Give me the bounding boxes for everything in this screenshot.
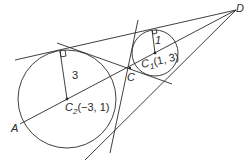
external-tangent-top — [15, 10, 236, 60]
label-a: A — [10, 122, 18, 134]
right-angle-marker-c2 — [60, 50, 66, 57]
label-c2: C2(−3, 1) — [65, 101, 110, 116]
centre-dot-c2 — [66, 98, 69, 101]
radius-label-c1: 1 — [155, 34, 161, 46]
tangent-circles-diagram: D C A 3 1 C2(−3, 1) C1(1, 3) — [0, 0, 250, 161]
label-d: D — [236, 2, 244, 14]
label-c: C — [127, 71, 135, 83]
label-c1: C1(1, 3) — [140, 50, 180, 73]
external-tangent-bottom — [85, 10, 236, 160]
radius-label-c2: 3 — [72, 69, 78, 81]
point-c-dot — [129, 67, 131, 69]
radius-c2 — [60, 51, 67, 99]
